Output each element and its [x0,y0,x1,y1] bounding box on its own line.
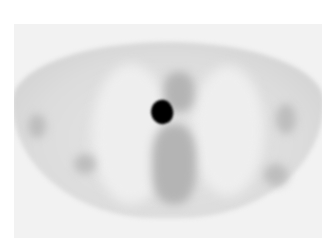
pet-scan-image [14,24,322,238]
chest-wall-uptake [74,154,96,174]
chest-wall-uptake [264,164,288,186]
right-lung-region [192,66,264,196]
chest-wall-uptake [28,114,46,138]
mediastinum-uptake [152,124,196,204]
chest-wall-uptake [276,104,296,134]
